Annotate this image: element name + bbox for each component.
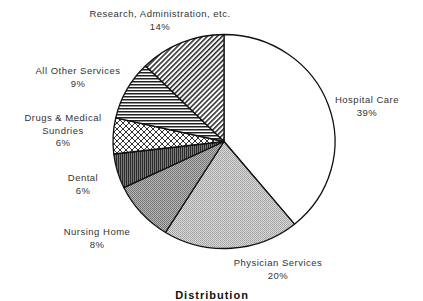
slice-label-dental: Dental6%: [68, 172, 98, 196]
slice-label-all-other-services: All Other Services9%: [35, 65, 120, 89]
pie-chart: Hospital Care39%Physician Services20%Nur…: [0, 0, 423, 301]
slice-label-drugs-medical-sundries: Drugs & MedicalSundries6%: [24, 112, 101, 148]
slice-label-nursing-home: Nursing Home8%: [64, 226, 131, 250]
slice-label-physician-services: Physician Services20%: [234, 257, 323, 281]
slice-label-hospital-care: Hospital Care39%: [335, 94, 399, 118]
slice-label-research-administration-etc: Research, Administration, etc.14%: [89, 8, 230, 32]
pie-slices: [113, 35, 335, 249]
chart-title: Distribution: [175, 289, 249, 301]
